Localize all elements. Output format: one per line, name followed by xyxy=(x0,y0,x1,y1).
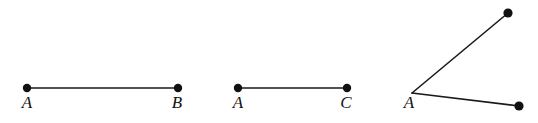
point-dot-a1 xyxy=(23,84,31,92)
geometry-canvas xyxy=(0,0,538,123)
point-label-c-segment-ac: C xyxy=(340,94,351,111)
point-label-a-segment-ac: A xyxy=(233,94,243,111)
geometry-figure: A B A C A xyxy=(0,0,538,123)
point-label-a-angle-vertex: A xyxy=(404,94,414,111)
angle-a-group xyxy=(412,8,524,110)
point-dot-b xyxy=(174,84,182,92)
angle-ray-lower xyxy=(412,93,519,106)
segment-ac-group xyxy=(234,84,351,92)
point-label-a-segment-ab: A xyxy=(22,94,32,111)
angle-ray-upper xyxy=(412,13,508,93)
point-label-b-segment-ab: B xyxy=(172,94,182,111)
point-dot-ray-upper-end xyxy=(503,8,512,17)
segment-ab-group xyxy=(23,84,182,92)
point-dot-a2 xyxy=(234,84,242,92)
point-dot-c xyxy=(343,84,351,92)
point-dot-ray-lower-end xyxy=(514,101,523,110)
